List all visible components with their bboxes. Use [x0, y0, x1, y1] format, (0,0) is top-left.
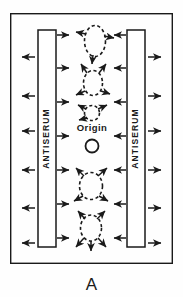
- left-inward-arrows: [57, 35, 69, 238]
- antiserum-trough-right-group: ANTISERUM: [127, 30, 145, 247]
- precipitin-arc-4: [74, 168, 108, 201]
- precipitin-arc-3: [78, 105, 107, 121]
- immunoelectrophoresis-diagram: ANTISERUM ANTISERUM: [0, 0, 183, 297]
- right-inward-arrows: [114, 35, 126, 238]
- antiserum-trough-left-group: ANTISERUM: [38, 30, 56, 247]
- left-outward-arrows: [22, 57, 35, 243]
- precipitin-arc-1: [76, 26, 114, 65]
- panel-caption: A: [0, 275, 183, 295]
- outer-frame: [11, 14, 173, 264]
- precipitin-arc-5: [76, 211, 106, 251]
- origin-label: Origin: [77, 122, 107, 133]
- precipitin-arc-2: [76, 64, 110, 96]
- origin-well: [86, 140, 99, 153]
- antiserum-trough-left-label: ANTISERUM: [41, 108, 51, 168]
- antiserum-trough-right-label: ANTISERUM: [130, 108, 140, 168]
- figure-panel-a: ANTISERUM ANTISERUM: [0, 0, 183, 297]
- right-outward-arrows: [148, 57, 161, 243]
